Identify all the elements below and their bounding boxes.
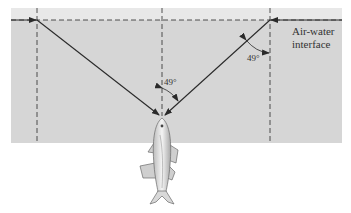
angle-label-right: 49° (247, 53, 260, 63)
angle-label-center: 49° (164, 77, 177, 87)
air-band (11, 8, 342, 20)
interface-label-line1: Air-water (292, 25, 335, 37)
refraction-diagram: 49° 49° Air-water interface (0, 0, 351, 213)
interface-label-line2: interface (292, 38, 331, 50)
